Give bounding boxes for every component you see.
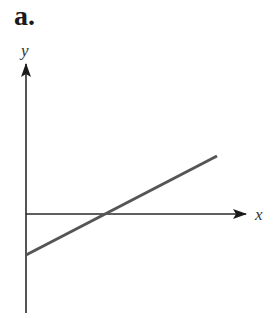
diagram: y x [0,0,277,318]
x-axis-label: x [254,205,263,224]
plotted-line [26,156,217,255]
y-axis-label: y [19,41,29,60]
